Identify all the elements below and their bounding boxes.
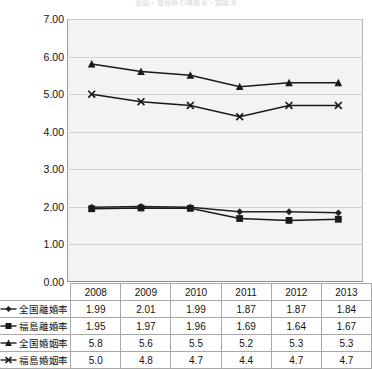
data-point-marker-square — [138, 205, 145, 212]
table-cell-value: 1.95 — [71, 318, 121, 335]
data-table-body: 200820092010201120122013全国離婚率1.992.011.9… — [0, 284, 372, 369]
data-point-marker-diamond — [6, 306, 12, 312]
x-axis-category-label: 2009 — [121, 284, 171, 301]
x-axis-category-label: 2012 — [271, 284, 321, 301]
data-point-marker-square — [335, 216, 342, 223]
data-point-marker-square — [286, 217, 293, 224]
legend-marker-x-icon — [0, 354, 17, 366]
y-axis-tick-label: 4.00 — [2, 126, 64, 138]
x-axis-category-label: 2011 — [221, 284, 271, 301]
series-line — [92, 64, 339, 87]
series-square — [88, 205, 341, 224]
plot-series-svg — [67, 19, 363, 282]
y-axis-tick-label: 2.00 — [2, 201, 64, 213]
y-axis-tick-label: 6.00 — [2, 51, 64, 63]
table-cell-value: 1.87 — [221, 301, 271, 318]
chart-title: 全国・福島県の離婚率・婚姻率 — [0, 0, 372, 7]
table-cell-value: 4.7 — [271, 352, 321, 369]
series-line — [92, 94, 339, 117]
x-axis-category-label: 2013 — [321, 284, 371, 301]
data-point-marker-square — [88, 205, 95, 212]
legend-entry-inner: 全国婚姻率 — [0, 335, 70, 351]
table-cell-value: 1.69 — [221, 318, 271, 335]
y-axis-tick-label: 7.00 — [2, 13, 64, 25]
table-cell-value: 1.99 — [71, 301, 121, 318]
table-row: 全国婚姻率5.85.65.55.25.35.3 — [0, 335, 372, 352]
table-cell-value: 1.87 — [271, 301, 321, 318]
table-cell-value: 1.64 — [271, 318, 321, 335]
table-cell-value: 5.3 — [271, 335, 321, 352]
table-cell-value: 5.3 — [321, 335, 371, 352]
legend-marker-triangle-icon — [0, 337, 17, 349]
table-cell-value: 5.5 — [171, 335, 221, 352]
y-axis-tick-label: 3.00 — [2, 163, 64, 175]
table-cell-value: 4.7 — [321, 352, 371, 369]
data-point-marker-square — [187, 205, 194, 212]
legend-entry: 福島婚姻率 — [0, 352, 71, 369]
legend-entry-inner: 福島婚姻率 — [0, 352, 70, 368]
legend-entry: 福島離婚率 — [0, 318, 71, 335]
legend-entry: 全国婚姻率 — [0, 335, 71, 352]
table-cell-value: 1.96 — [171, 318, 221, 335]
x-axis-category-label: 2010 — [171, 284, 221, 301]
table-cell-value: 4.4 — [221, 352, 271, 369]
table-cell-value: 1.99 — [171, 301, 221, 318]
table-cell-value: 2.01 — [121, 301, 171, 318]
table-row: 全国離婚率1.992.011.991.871.871.84 — [0, 301, 372, 318]
legend-marker-square-icon — [0, 320, 17, 332]
series-triangle — [88, 60, 342, 90]
data-point-marker-diamond — [286, 208, 293, 215]
table-cell-value: 5.2 — [221, 335, 271, 352]
table-cell-value: 5.8 — [71, 335, 121, 352]
series-diamond — [88, 203, 341, 216]
table-cell-value: 1.67 — [321, 318, 371, 335]
table-cell-value: 4.8 — [121, 352, 171, 369]
legend-label: 全国離婚率 — [19, 302, 68, 316]
data-point-marker-diamond — [236, 208, 243, 215]
plot-area — [67, 19, 363, 282]
series-x — [88, 91, 341, 120]
table-corner-cell — [0, 284, 71, 301]
table-cell-value: 5.0 — [71, 352, 121, 369]
y-axis-tick-label: 5.00 — [2, 88, 64, 100]
legend-entry-inner: 全国離婚率 — [0, 301, 70, 317]
table-cell-value: 5.6 — [121, 335, 171, 352]
legend-marker-diamond-icon — [0, 303, 17, 315]
table-cell-value: 1.84 — [321, 301, 371, 318]
table-row: 福島婚姻率5.04.84.74.44.74.7 — [0, 352, 372, 369]
data-point-marker-square — [236, 215, 243, 222]
legend-label: 福島婚姻率 — [19, 353, 68, 367]
data-point-marker-square — [6, 323, 12, 329]
legend-entry-inner: 福島離婚率 — [0, 318, 70, 334]
legend-entry: 全国離婚率 — [0, 301, 71, 318]
table-cell-value: 1.97 — [121, 318, 171, 335]
legend-label: 全国婚姻率 — [19, 336, 68, 350]
legend-label: 福島離婚率 — [19, 319, 68, 333]
data-point-marker-diamond — [335, 209, 342, 216]
data-table: 200820092010201120122013全国離婚率1.992.011.9… — [0, 283, 372, 369]
x-axis-category-label: 2008 — [71, 284, 121, 301]
table-cell-value: 4.7 — [171, 352, 221, 369]
y-axis-tick-label: 1.00 — [2, 238, 64, 250]
y-axis-labels: 7.006.005.004.003.002.001.000.00 — [0, 19, 64, 282]
table-row: 福島離婚率1.951.971.961.691.641.67 — [0, 318, 372, 335]
table-header-row: 200820092010201120122013 — [0, 284, 372, 301]
